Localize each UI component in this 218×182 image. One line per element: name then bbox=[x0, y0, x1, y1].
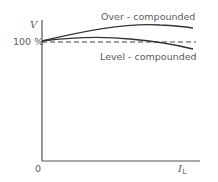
y-axis-label: V bbox=[30, 19, 39, 30]
level-compounded-label: Level - compounded bbox=[100, 51, 197, 62]
over-compounded-label: Over - compounded bbox=[101, 11, 195, 22]
chart: V 100 % Over - compounded Level - compou… bbox=[0, 0, 218, 182]
level-compounded-curve bbox=[42, 37, 193, 49]
x-axis-label-sub: L bbox=[182, 168, 187, 176]
origin-label: 0 bbox=[35, 163, 41, 174]
x-axis-label: IL bbox=[177, 163, 187, 176]
hundred-percent-label: 100 % bbox=[13, 36, 43, 47]
